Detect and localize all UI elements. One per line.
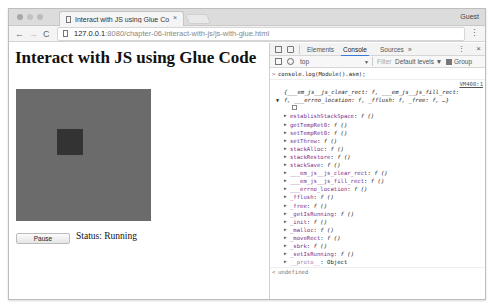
colon: : — [307, 203, 314, 209]
property-key: stackSave — [290, 162, 320, 168]
property-row[interactable]: ▶_free: f () — [270, 202, 486, 210]
property-key: setTempRet0 — [290, 130, 327, 136]
checkbox-icon[interactable] — [446, 59, 452, 65]
property-value: f () — [371, 178, 384, 184]
property-key: _malloc — [290, 227, 314, 233]
inspect-element-icon[interactable] — [275, 46, 282, 53]
expand-triangle-icon[interactable]: ▶ — [284, 112, 287, 120]
maximize-window-button[interactable] — [37, 14, 43, 20]
address-bar[interactable]: 127.0.0.1:8080/chapter-06-interact-with-… — [57, 27, 465, 41]
property-row[interactable]: ▶_fflush: f () — [270, 193, 486, 201]
prompt-icon: > — [272, 70, 275, 78]
property-key: ___em_js__js_clear_rect — [290, 170, 367, 176]
property-row[interactable]: ▶establishStackSpace: f () — [270, 112, 486, 120]
expand-triangle-icon[interactable]: ▶ — [284, 242, 287, 250]
property-list: ▶establishStackSpace: f ()▶getTempRet0: … — [270, 112, 486, 258]
page-content: Interact with JS using Glue Code Pause S… — [9, 43, 269, 300]
property-row[interactable]: ▶getTempRet0: f () — [270, 121, 486, 129]
property-value: f () — [320, 194, 333, 200]
property-key: ___errno_location — [290, 186, 347, 192]
expand-triangle-icon[interactable]: ▶ — [284, 202, 287, 210]
property-row[interactable]: ▶setTempRet0: f () — [270, 129, 486, 137]
expand-triangle-icon[interactable]: ▶ — [284, 161, 287, 169]
expand-triangle-icon[interactable]: ▶ — [284, 210, 287, 218]
property-row[interactable]: ▶_setIsRunning: f () — [270, 250, 486, 258]
property-row[interactable]: ▶stackRestore: f () — [270, 153, 486, 161]
property-row[interactable]: ▶___errno_location: f () — [270, 185, 486, 193]
context-dropdown-icon[interactable]: ▼ — [364, 58, 369, 66]
property-row[interactable]: ▶___em_js__js_clear_rect: f () — [270, 169, 486, 177]
expand-triangle-icon[interactable]: ▶ — [284, 218, 287, 226]
property-key: setThrew — [290, 138, 317, 144]
summary-line-1: {___em_js__js_clear_rect: f, ___em_js__j… — [284, 89, 459, 95]
tab-elements[interactable]: Elements — [307, 45, 334, 54]
expand-triangle-icon[interactable]: ▶ — [284, 145, 287, 153]
profile-label[interactable]: Guest — [460, 13, 479, 20]
browser-tab[interactable]: Interact with JS using Glue Co × — [59, 11, 184, 26]
property-row[interactable]: ▶_malloc: f () — [270, 226, 486, 234]
expand-triangle-icon[interactable]: ▼ — [276, 96, 279, 104]
devtools-menu-icon[interactable]: ⋮ — [458, 45, 465, 53]
expand-triangle-icon[interactable]: ▶ — [284, 185, 287, 193]
property-row[interactable]: ▶setThrew: f () — [270, 137, 486, 145]
property-value: f () — [354, 186, 367, 192]
console-command: > console.log(Module().asm); — [270, 70, 486, 80]
colon: : — [317, 138, 324, 144]
property-row[interactable]: ▶___em_js__js_fill_rect: f () — [270, 177, 486, 185]
expand-triangle-icon[interactable]: ▶ — [284, 258, 287, 266]
show-drawer-icon[interactable] — [275, 58, 282, 65]
property-value: f () — [324, 138, 337, 144]
filter-input[interactable]: Filter — [377, 58, 391, 66]
expand-triangle-icon[interactable]: ▶ — [284, 234, 287, 242]
property-row[interactable]: ▶stackAlloc: f () — [270, 145, 486, 153]
game-canvas[interactable] — [16, 89, 151, 221]
browser-toolbar: ← → C 127.0.0.1:8080/chapter-06-interact… — [9, 26, 485, 42]
tab-close-icon[interactable]: × — [173, 14, 177, 21]
close-devtools-icon[interactable]: × — [476, 44, 481, 53]
device-toolbar-icon[interactable] — [287, 46, 294, 53]
property-key: stackRestore — [290, 154, 330, 160]
source-link[interactable]: VM400:1 — [270, 80, 486, 88]
expand-triangle-icon[interactable]: ▶ — [284, 226, 287, 234]
property-row[interactable]: ▶_moveRect: f () — [270, 234, 486, 242]
browser-menu-icon[interactable]: ⋮ — [470, 28, 479, 38]
expand-triangle-icon[interactable]: ▶ — [284, 137, 287, 145]
context-selector[interactable]: top — [300, 58, 309, 66]
property-value: f () — [314, 243, 327, 249]
colon: : — [347, 186, 354, 192]
expand-triangle-icon[interactable]: ▶ — [284, 193, 287, 201]
property-key: _init — [290, 219, 307, 225]
clear-console-icon[interactable] — [287, 58, 294, 65]
group-label: Group — [454, 58, 472, 65]
new-tab-button[interactable] — [185, 14, 211, 24]
object-summary[interactable]: ▼ f, ___errno_location: f, _fflush: f, _… — [270, 96, 486, 104]
expand-triangle-icon[interactable]: ▶ — [284, 121, 287, 129]
tab-console[interactable]: Console — [343, 45, 367, 54]
tab-sources[interactable]: Sources — [380, 45, 404, 54]
expand-triangle-icon[interactable]: ▶ — [284, 250, 287, 258]
property-row[interactable]: ▶_sbrk: f () — [270, 242, 486, 250]
minimize-window-button[interactable] — [27, 14, 33, 20]
group-similar-checkbox[interactable]: Group — [446, 58, 472, 66]
expand-triangle-icon[interactable]: ▶ — [284, 153, 287, 161]
forward-arrow-icon[interactable]: → — [29, 28, 38, 40]
expand-triangle-icon[interactable]: ▶ — [284, 169, 287, 177]
log-levels-dropdown[interactable]: Default levels ▼ — [395, 58, 442, 66]
property-row[interactable]: ▶stackSave: f () — [270, 161, 486, 169]
result-text: undefined — [278, 269, 308, 275]
browser-window: Interact with JS using Glue Co × Guest ←… — [8, 8, 486, 300]
proto-row[interactable]: ▶ __proto__: Object — [270, 258, 486, 266]
page-info-icon[interactable] — [63, 30, 68, 37]
more-tabs-icon[interactable]: » — [408, 45, 412, 54]
expand-triangle-icon[interactable]: ▶ — [284, 129, 287, 137]
object-summary[interactable]: {___em_js__js_clear_rect: f, ___em_js__j… — [270, 88, 486, 96]
info-icon[interactable] — [292, 105, 297, 110]
expand-triangle-icon[interactable]: ▶ — [284, 177, 287, 185]
reload-icon[interactable]: C — [43, 28, 50, 40]
property-row[interactable]: ▶_getIsRunning: f () — [270, 210, 486, 218]
colon: : — [364, 178, 371, 184]
close-window-button[interactable] — [17, 14, 23, 20]
property-row[interactable]: ▶_init: f () — [270, 218, 486, 226]
back-arrow-icon[interactable]: ← — [15, 28, 24, 40]
pause-button[interactable]: Pause — [16, 233, 70, 244]
